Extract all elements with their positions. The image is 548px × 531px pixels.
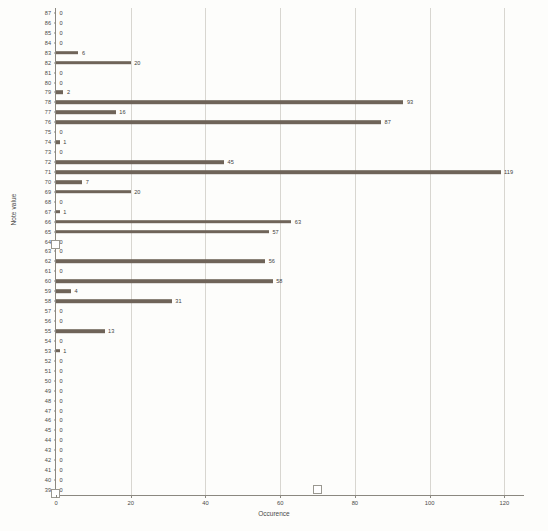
- bar: [56, 349, 60, 353]
- bar-value-label: 20: [134, 60, 140, 66]
- x-tick-mark: [504, 495, 505, 498]
- bar-row: 810: [56, 68, 523, 78]
- y-tick-mark: [54, 380, 56, 381]
- bar-value-label: 87: [385, 119, 391, 125]
- bar-row: 390: [56, 485, 523, 495]
- y-tick-label: 58: [45, 298, 51, 304]
- bar-row: 460: [56, 415, 523, 425]
- y-tick-label: 68: [45, 199, 51, 205]
- y-tick-label: 80: [45, 80, 51, 86]
- bar-value-label: 0: [60, 477, 63, 483]
- y-tick-label: 69: [45, 189, 51, 195]
- x-tick-label: 20: [127, 500, 133, 506]
- bar-row: 850: [56, 28, 523, 38]
- bar-value-label: 0: [60, 10, 63, 16]
- y-tick-label: 56: [45, 318, 51, 324]
- bar-row: 410: [56, 465, 523, 475]
- y-tick-label: 52: [45, 358, 51, 364]
- bar-value-label: 0: [60, 308, 63, 314]
- y-tick-mark: [54, 400, 56, 401]
- bar-value-label: 0: [60, 80, 63, 86]
- bar-row: 6663: [56, 217, 523, 227]
- bar-value-label: 6: [82, 50, 85, 56]
- bar-value-label: 63: [295, 219, 301, 225]
- y-tick-label: 66: [45, 219, 51, 225]
- bar: [56, 260, 265, 264]
- bar-value-label: 0: [60, 199, 63, 205]
- bar-value-label: 0: [60, 398, 63, 404]
- bar-value-label: 45: [228, 159, 234, 165]
- y-tick-mark: [54, 152, 56, 153]
- y-axis-title: Note value: [10, 170, 17, 250]
- y-tick-mark: [54, 201, 56, 202]
- x-axis-spine: [56, 495, 524, 496]
- bar-row: 7245: [56, 157, 523, 167]
- bar-value-label: 0: [60, 318, 63, 324]
- x-axis-title: Occurence: [0, 510, 548, 517]
- bar-value-label: 0: [60, 20, 63, 26]
- bar-row: 594: [56, 286, 523, 296]
- y-tick-label: 70: [45, 179, 51, 185]
- y-tick-label: 44: [45, 437, 51, 443]
- bar: [56, 51, 78, 55]
- y-tick-mark: [54, 460, 56, 461]
- y-tick-mark: [54, 12, 56, 13]
- bar-row: 560: [56, 316, 523, 326]
- bar-row: 792: [56, 88, 523, 98]
- y-tick-mark: [54, 440, 56, 441]
- bar-value-label: 0: [60, 268, 63, 274]
- bar-row: 400: [56, 475, 523, 485]
- y-tick-label: 74: [45, 139, 51, 145]
- axis-handle-x-scroll[interactable]: [313, 485, 322, 494]
- bar-row: 490: [56, 386, 523, 396]
- bar-value-label: 2: [67, 89, 70, 95]
- bar: [56, 120, 381, 124]
- bar: [56, 101, 403, 105]
- y-tick-label: 53: [45, 348, 51, 354]
- bar-value-label: 0: [60, 447, 63, 453]
- bar-row: 440: [56, 435, 523, 445]
- bar-row: 840: [56, 38, 523, 48]
- bar-value-label: 0: [60, 129, 63, 135]
- bar-value-label: 56: [269, 258, 275, 264]
- y-tick-label: 72: [45, 159, 51, 165]
- y-tick-mark: [54, 480, 56, 481]
- x-tick-label: 100: [425, 500, 435, 506]
- x-tick-mark: [131, 495, 132, 498]
- bar-value-label: 0: [60, 368, 63, 374]
- x-tick-mark: [355, 495, 356, 498]
- y-tick-label: 87: [45, 10, 51, 16]
- y-tick-label: 61: [45, 268, 51, 274]
- bar-value-label: 0: [60, 40, 63, 46]
- y-tick-label: 43: [45, 447, 51, 453]
- y-tick-mark: [54, 321, 56, 322]
- y-tick-mark: [54, 430, 56, 431]
- y-tick-label: 76: [45, 119, 51, 125]
- y-tick-label: 78: [45, 99, 51, 105]
- y-tick-label: 55: [45, 328, 51, 334]
- bar-value-label: 0: [60, 388, 63, 394]
- bar-value-label: 7: [86, 179, 89, 185]
- bar-row: 470: [56, 406, 523, 416]
- axis-handle-y-scroll[interactable]: [51, 240, 60, 249]
- bar-value-label: 0: [60, 149, 63, 155]
- y-tick-label: 42: [45, 457, 51, 463]
- y-tick-label: 84: [45, 40, 51, 46]
- bar: [56, 140, 60, 144]
- x-tick-mark: [280, 495, 281, 498]
- y-tick-label: 83: [45, 50, 51, 56]
- y-tick-mark: [54, 311, 56, 312]
- plot-area: 8708608508408368220810800792789377167687…: [56, 8, 523, 495]
- y-tick-mark: [54, 370, 56, 371]
- bar-row: 750: [56, 127, 523, 137]
- y-tick-label: 54: [45, 338, 51, 344]
- bar-value-label: 0: [60, 417, 63, 423]
- y-tick-label: 81: [45, 70, 51, 76]
- bar-value-label: 58: [276, 278, 282, 284]
- y-tick-label: 57: [45, 308, 51, 314]
- bar: [56, 160, 224, 164]
- bar-value-label: 0: [60, 70, 63, 76]
- bar-row: 480: [56, 396, 523, 406]
- y-tick-mark: [54, 72, 56, 73]
- bar-row: 6256: [56, 256, 523, 266]
